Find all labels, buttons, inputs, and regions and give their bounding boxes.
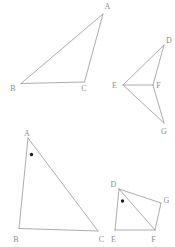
edge-BC xyxy=(19,229,98,232)
edge-AB xyxy=(19,138,28,229)
edge-DE xyxy=(123,45,164,85)
edge-AB xyxy=(21,14,103,84)
triangle-ABC-top-left: ABC xyxy=(10,2,110,93)
point-marker xyxy=(121,199,124,202)
edge-EG xyxy=(123,85,164,123)
edge-FG xyxy=(153,85,164,123)
figure-DEFG-top-right: DEFG xyxy=(112,36,172,136)
vertex-label-B: B xyxy=(13,235,18,244)
geometry-canvas: ABCDEFGABCDEFG xyxy=(0,0,175,247)
vertex-label-C: C xyxy=(99,235,104,244)
triangle-ABC-bottom-left: ABC xyxy=(13,129,104,244)
point-marker xyxy=(30,153,33,156)
vertex-label-E: E xyxy=(111,235,116,244)
vertex-label-G: G xyxy=(161,127,167,136)
vertex-label-D: D xyxy=(166,36,172,45)
vertex-label-A: A xyxy=(105,2,111,11)
edge-AC xyxy=(28,138,98,231)
edge-BC xyxy=(21,82,85,84)
vertex-label-E: E xyxy=(112,81,117,90)
vertex-label-A: A xyxy=(24,129,30,138)
vertex-label-F: F xyxy=(156,81,161,90)
geometry-diagram: ABCDEFGABCDEFG xyxy=(0,0,175,247)
vertex-label-B: B xyxy=(10,84,15,93)
vertex-label-C: C xyxy=(81,84,86,93)
figure-DEFG-bottom-right: DEFG xyxy=(111,180,170,245)
vertex-label-F: F xyxy=(151,235,156,244)
edge-DF xyxy=(153,45,164,85)
edge-DE xyxy=(115,189,119,230)
edge-AC xyxy=(85,14,104,82)
vertex-label-D: D xyxy=(111,180,117,189)
edge-GF xyxy=(155,203,161,230)
vertex-label-G: G xyxy=(164,196,170,205)
